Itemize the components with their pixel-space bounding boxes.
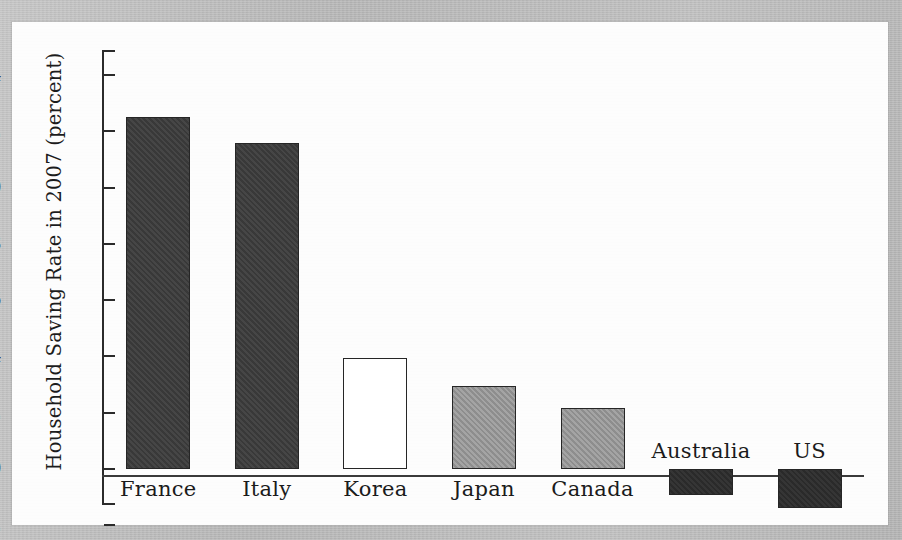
y-axis-tick-mark xyxy=(104,130,115,132)
y-axis-tick-label: 8 xyxy=(0,231,2,255)
category-label-us: US xyxy=(745,439,874,463)
y-axis-tick-label: 4 xyxy=(0,343,2,367)
bar-australia xyxy=(669,469,733,496)
y-axis-title: Household Saving Rate in 2007 (percent) xyxy=(43,52,66,472)
bar-canada xyxy=(561,408,625,468)
y-axis-tick-mark xyxy=(104,299,115,301)
bar-japan xyxy=(452,386,516,469)
bar-us xyxy=(778,469,842,508)
bar-korea xyxy=(343,358,407,469)
y-axis-bottom-cap xyxy=(102,503,115,505)
y-axis-tick-mark xyxy=(104,187,115,189)
y-axis-tick-mark xyxy=(104,355,115,357)
y-axis-tick-mark xyxy=(104,468,115,470)
bar-chart-plot-area: Household Saving Rate in 2007 (percent) … xyxy=(12,22,888,525)
y-axis-tick-label: 2 xyxy=(0,400,2,424)
bar-france xyxy=(126,117,190,469)
scanned-page-background: Household Saving Rate in 2007 (percent) … xyxy=(0,0,902,540)
y-axis-spine xyxy=(102,50,104,505)
y-axis-tick-label: 12 xyxy=(0,118,2,142)
y-axis-tick-label: 14 xyxy=(0,62,2,86)
y-axis-tick-mark xyxy=(104,524,115,526)
y-axis-tick-label: 0 xyxy=(0,456,2,480)
figure-panel: Household Saving Rate in 2007 (percent) … xyxy=(12,22,888,525)
y-axis-tick-label: 6 xyxy=(0,287,2,311)
y-axis-tick-mark xyxy=(104,74,115,76)
category-label-canada: Canada xyxy=(528,477,657,501)
bar-italy xyxy=(235,143,299,469)
y-axis-tick-label: −2 xyxy=(0,512,2,536)
y-axis-tick-label: 10 xyxy=(0,175,2,199)
y-axis-tick-mark xyxy=(104,412,115,414)
y-axis-tick-mark xyxy=(104,243,115,245)
y-axis-top-cap xyxy=(102,50,115,52)
